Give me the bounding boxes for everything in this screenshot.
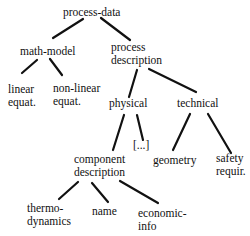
node-economic-line2: info	[138, 220, 157, 232]
edge-technical-geometry	[173, 114, 190, 150]
node-thermo-line1: thermo-	[27, 202, 64, 214]
node-economic-line1: economic-	[138, 207, 187, 219]
node-physical: physical	[109, 97, 147, 110]
tree-diagram: process-data math-model process descript…	[0, 0, 250, 236]
edge-process-description-physical	[129, 70, 137, 97]
node-name: name	[92, 205, 117, 217]
edge-component-economic	[120, 181, 158, 203]
node-component-line1: component	[74, 153, 126, 166]
edge-process-data-math-model	[53, 19, 83, 38]
node-thermo-line2: dynamics	[27, 215, 72, 228]
edge-math-model-nonlinear	[50, 59, 62, 75]
node-component-line2: description	[74, 166, 125, 179]
node-safety-line1: safety	[216, 152, 244, 165]
edge-component-thermo	[59, 182, 78, 199]
node-process-description-line2: description	[111, 54, 162, 67]
edge-physical-ellipsis	[137, 115, 143, 140]
node-ellipsis: [...]	[133, 139, 149, 151]
node-process-data: process-data	[63, 6, 120, 19]
edge-technical-safety	[208, 114, 231, 153]
node-linear-line1: linear	[8, 83, 34, 95]
node-linear-line2: equat.	[8, 96, 36, 109]
node-geometry: geometry	[153, 154, 197, 167]
edge-process-data-process-description	[101, 18, 130, 40]
edge-physical-component	[113, 115, 124, 150]
node-nonlinear-line2: equat.	[53, 95, 81, 108]
edge-component-name	[92, 183, 108, 202]
node-technical: technical	[177, 97, 219, 109]
node-math-model: math-model	[20, 45, 76, 57]
edge-process-description-technical	[149, 69, 196, 92]
edge-math-model-linear	[22, 60, 37, 73]
node-process-description-line1: process	[111, 41, 146, 54]
node-nonlinear-line1: non-linear	[53, 82, 100, 94]
node-safety-line2: requir.	[216, 165, 246, 178]
